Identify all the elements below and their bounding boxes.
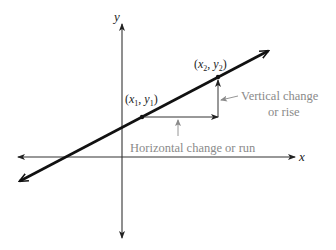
x-axis-label: x [298, 149, 305, 164]
rise-pointer [221, 96, 238, 100]
slope-diagram: x y (x1, y1) (x2, y2) Vertical change or… [0, 0, 336, 250]
y-axis-label: y [112, 9, 120, 24]
rise-annotation-line2: or rise [268, 105, 300, 119]
rise-annotation-line1: Vertical change [241, 89, 319, 103]
sloped-line [20, 51, 268, 181]
point-2-marker [216, 75, 220, 79]
point-1-label: (x1, y1) [125, 92, 158, 108]
point-1-marker [140, 115, 144, 119]
run-annotation: Horizontal change or run [130, 141, 256, 155]
point-2-label: (x2, y2) [194, 57, 227, 73]
